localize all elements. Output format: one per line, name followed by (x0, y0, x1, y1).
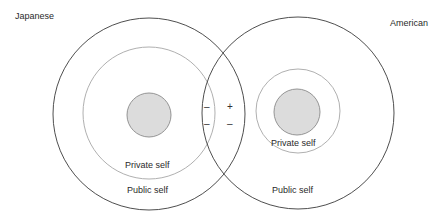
japanese-private-self-label: Private self (125, 161, 170, 170)
japanese-label: Japanese (15, 12, 54, 21)
japanese-core-circle (127, 93, 171, 137)
american-public-self-label: Public self (272, 186, 313, 195)
overlap-minus-sign: – (204, 119, 210, 129)
overlap-minus-sign: – (227, 119, 233, 129)
overlap-plus-sign: + (227, 102, 233, 112)
overlap-minus-sign: – (204, 102, 210, 112)
american-private-self-label: Private self (271, 139, 316, 148)
japanese-public-self-label: Public self (127, 186, 168, 195)
venn-diagram (0, 0, 443, 219)
american-core-circle (274, 89, 320, 135)
american-label: American (390, 19, 428, 28)
